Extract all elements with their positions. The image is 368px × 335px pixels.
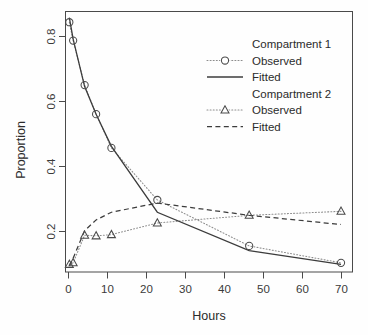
x-ticklabel-5: 50 bbox=[257, 283, 270, 295]
legend-label-dashed-line: Fitted bbox=[252, 121, 281, 133]
x-ticklabel-0: 0 bbox=[65, 283, 71, 295]
y-ticklabel-2: 0.4 bbox=[45, 158, 57, 175]
plot-canvas: 0.8 0.6 0.4 0.2 Proportion 0 10 20 30 40… bbox=[0, 0, 368, 335]
x-ticklabel-7: 70 bbox=[335, 283, 348, 295]
compartment1-observed-markers bbox=[66, 19, 345, 267]
y-ticklabel-0: 0.8 bbox=[45, 29, 57, 45]
chart-figure: 0.8 0.6 0.4 0.2 Proportion 0 10 20 30 40… bbox=[0, 0, 368, 335]
legend-heading-1: Compartment 1 bbox=[252, 38, 331, 50]
data-point-triangle bbox=[81, 231, 89, 238]
x-ticklabel-2: 20 bbox=[140, 283, 153, 295]
legend-label-solid-line: Fitted bbox=[252, 71, 281, 83]
y-axis-ticklabels: 0.8 0.6 0.4 0.2 bbox=[45, 29, 57, 240]
legend-heading-2: Compartment 2 bbox=[252, 88, 331, 100]
x-ticklabel-4: 40 bbox=[218, 283, 231, 295]
x-ticklabel-3: 30 bbox=[179, 283, 192, 295]
x-axis-ticks bbox=[69, 272, 342, 279]
x-axis-title: Hours bbox=[192, 309, 225, 323]
y-axis-ticks bbox=[59, 37, 66, 232]
legend-label-triangle-dotted: Observed bbox=[252, 104, 302, 116]
chart-legend: Compartment 1ObservedFittedCompartment 2… bbox=[207, 38, 331, 133]
x-axis-ticklabels: 0 10 20 30 40 50 60 70 bbox=[65, 283, 348, 295]
x-ticklabel-1: 10 bbox=[101, 283, 114, 295]
y-ticklabel-3: 0.2 bbox=[45, 224, 57, 240]
data-point-triangle bbox=[92, 232, 100, 239]
data-point-triangle bbox=[337, 207, 345, 214]
data-point-circle bbox=[337, 259, 344, 266]
y-axis-title: Proportion bbox=[14, 121, 28, 179]
legend-label-circle-dotted: Observed bbox=[252, 55, 302, 67]
data-point-triangle bbox=[153, 219, 161, 226]
y-ticklabel-1: 0.6 bbox=[45, 94, 57, 110]
x-ticklabel-6: 60 bbox=[296, 283, 309, 295]
data-point-triangle bbox=[107, 230, 115, 237]
data-series-layer bbox=[65, 18, 345, 268]
